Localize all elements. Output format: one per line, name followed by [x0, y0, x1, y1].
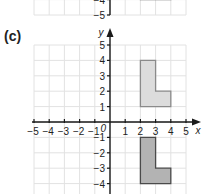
prev-y-tick-label: −4: [94, 0, 106, 6]
x-tick-label: 5: [183, 126, 189, 137]
x-tick-label: 2: [138, 126, 144, 137]
part-label: (c): [4, 28, 21, 44]
y-tick-label: −1: [94, 132, 106, 143]
y-tick-label: 4: [99, 55, 105, 66]
x-tick-label: −5: [27, 126, 39, 137]
y-tick-label: 5: [99, 40, 105, 51]
figure: (c) −4−5xy0−5−4−3−2−11234554321−1−2−3−4: [0, 0, 202, 194]
x-tick-label: 3: [153, 126, 159, 137]
y-tick-label: 1: [99, 102, 105, 113]
x-tick-label: −4: [42, 126, 54, 137]
y-axis-arrow-icon: [107, 28, 114, 37]
y-tick-label: 3: [99, 71, 105, 82]
object-L-shape: [140, 60, 170, 106]
y-tick-label: −3: [94, 163, 106, 174]
x-axis-label: x: [195, 125, 202, 136]
coordinate-grid: −4−5xy0−5−4−3−2−11234554321−1−2−3−4: [0, 0, 202, 194]
x-tick-label: −2: [73, 126, 85, 137]
prev-y-tick-label: −5: [94, 10, 106, 21]
image-L-shape-reflected: [140, 137, 170, 183]
x-tick-label: −3: [58, 126, 70, 137]
y-tick-label: −2: [94, 148, 106, 159]
y-axis-label: y: [98, 27, 105, 38]
x-tick-label: 4: [168, 126, 174, 137]
y-tick-label: −4: [94, 179, 106, 190]
y-tick-label: 2: [99, 86, 105, 97]
x-tick-label: 1: [122, 126, 128, 137]
